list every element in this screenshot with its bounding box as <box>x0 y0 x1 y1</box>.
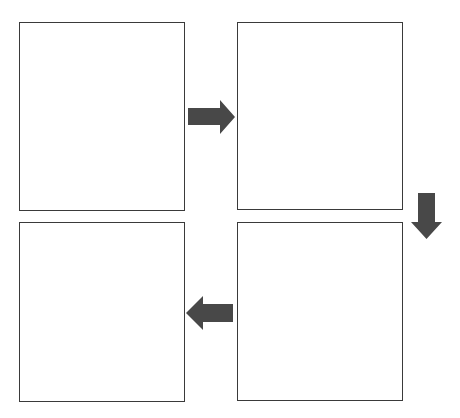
step-box-top-left <box>19 22 185 211</box>
faint-header-remnant <box>20 0 350 8</box>
step-box-bottom-right <box>237 222 403 401</box>
arrow-right-icon <box>188 100 236 134</box>
step-box-bottom-left <box>19 222 185 402</box>
arrow-down-icon <box>410 193 443 240</box>
step-box-top-right <box>237 22 403 210</box>
arrow-left-icon <box>186 296 234 330</box>
